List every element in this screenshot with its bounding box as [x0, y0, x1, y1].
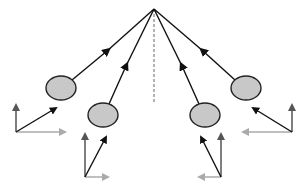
ray-right-inner — [182, 66, 199, 104]
object-ellipse-right-inner — [190, 103, 220, 127]
ray-right-inner-to-apex — [154, 9, 182, 66]
direction-vector-arrow-left-outer — [16, 108, 56, 132]
direction-vector-arrow-right-outer — [253, 108, 292, 132]
ray-left-inner-to-apex — [126, 9, 154, 66]
ray-left-outer — [72, 51, 107, 80]
object-ellipse-right-outer — [231, 76, 261, 100]
frames-group — [16, 105, 292, 177]
direction-vector-arrow-right-inner — [201, 137, 221, 177]
ray-right-outer — [203, 51, 235, 80]
ray-left-inner — [109, 66, 126, 104]
direction-vector-arrow-left-inner — [85, 137, 106, 177]
diagram-canvas — [0, 0, 303, 190]
object-ellipse-left-outer — [46, 76, 76, 100]
ray-right-outer-to-apex — [154, 9, 203, 51]
ray-left-outer-to-apex — [107, 9, 154, 51]
object-ellipse-left-inner — [88, 103, 118, 127]
